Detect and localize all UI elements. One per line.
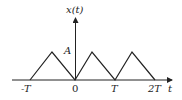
tick-label-t: T xyxy=(111,83,119,94)
tick-label-2t: 2T xyxy=(147,83,162,94)
triangle-waveform xyxy=(30,52,155,80)
y-axis-label: x(t) xyxy=(66,4,84,15)
waveform-diagram: x(t) A -T 0 T 2T t xyxy=(0,0,182,100)
x-axis-label: t xyxy=(168,83,173,94)
tick-label-neg-t: -T xyxy=(21,83,32,94)
amplitude-label: A xyxy=(63,45,71,56)
tick-label-zero: 0 xyxy=(72,83,78,94)
